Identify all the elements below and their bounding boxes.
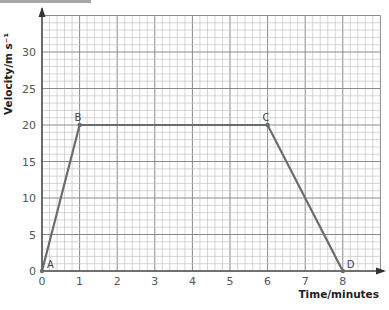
x-tick-label: 0 — [39, 275, 46, 288]
y-tick-label: 15 — [22, 156, 36, 169]
x-tick-label: 5 — [227, 275, 234, 288]
velocity-time-graph: 012345678051015202530 ABCD Time/minutes … — [0, 0, 389, 310]
x-axis-label: Time/minutes — [298, 288, 379, 300]
y-tick-label: 10 — [22, 192, 36, 205]
y-tick-label: 25 — [22, 83, 36, 96]
point-label-a: A — [47, 259, 54, 270]
point-label-d: D — [347, 259, 355, 270]
grid — [42, 16, 380, 272]
point-label-c: C — [263, 112, 270, 123]
x-tick-label: 4 — [189, 275, 196, 288]
y-axis-label: Velocity/m s⁻¹ — [2, 33, 14, 115]
y-tick-label: 5 — [29, 229, 36, 242]
y-tick-label: 20 — [22, 119, 36, 132]
x-tick-label: 3 — [151, 275, 158, 288]
x-tick-label: 1 — [76, 275, 83, 288]
data-point — [341, 269, 345, 273]
y-axis-arrow-icon — [39, 7, 46, 17]
data-point — [40, 269, 44, 273]
x-axis-arrow-icon — [376, 268, 386, 275]
x-tick-label: 8 — [339, 275, 346, 288]
y-tick-label: 30 — [22, 46, 36, 59]
y-tick-label: 0 — [29, 265, 36, 278]
x-tick-label: 2 — [114, 275, 121, 288]
point-label-b: B — [75, 112, 82, 123]
data-point — [77, 123, 81, 127]
x-tick-label: 7 — [302, 275, 309, 288]
data-point — [265, 123, 269, 127]
x-tick-label: 6 — [264, 275, 271, 288]
